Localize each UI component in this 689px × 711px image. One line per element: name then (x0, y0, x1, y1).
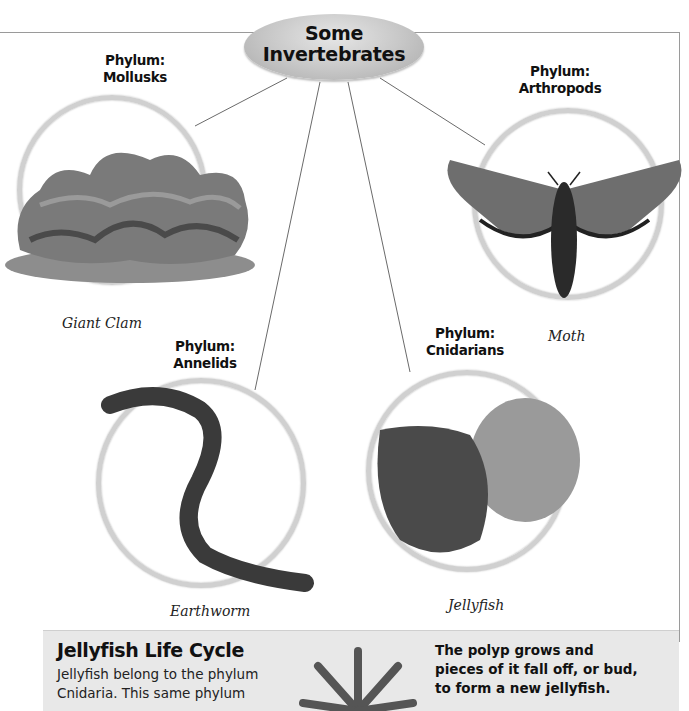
phylum-name: Annelids (150, 355, 260, 372)
panel-side-text: The polyp grows and pieces of it fall of… (435, 641, 665, 698)
panel-title: Jellyfish Life Cycle (57, 639, 244, 661)
jellyfish-life-cycle-panel: Jellyfish Life Cycle Jellyfish belong to… (43, 630, 679, 711)
polyp-image (298, 641, 418, 711)
title-line-1: Some (244, 23, 424, 44)
panel-side-line: The polyp grows and (435, 641, 665, 660)
phylum-prefix: Phylum: (505, 63, 615, 80)
moth-image (440, 150, 689, 300)
caption-moth: Moth (548, 328, 585, 344)
phylum-name: Arthropods (505, 80, 615, 97)
panel-text-line: Jellyfish belong to the phylum (57, 665, 297, 684)
caption-earthworm: Earthworm (170, 603, 250, 619)
title-line-2: Invertebrates (244, 44, 424, 65)
jellyfish-image (350, 390, 590, 580)
phylum-label-cnidarians: Phylum: Cnidarians (410, 325, 520, 359)
panel-text: Jellyfish belong to the phylum Cnidaria.… (57, 665, 297, 703)
phylum-name: Mollusks (80, 69, 190, 86)
panel-side-line: pieces of it fall off, or bud, (435, 660, 665, 679)
phylum-label-arthropods: Phylum: Arthropods (505, 63, 615, 97)
phylum-prefix: Phylum: (80, 52, 190, 69)
phylum-prefix: Phylum: (150, 338, 260, 355)
phylum-prefix: Phylum: (410, 325, 520, 342)
giant-clam-image (0, 130, 260, 285)
phylum-name: Cnidarians (410, 342, 520, 359)
phylum-label-mollusks: Phylum: Mollusks (80, 52, 190, 86)
panel-text-line: Cnidaria. This same phylum (57, 684, 297, 703)
earthworm-image (100, 385, 320, 595)
caption-jellyfish: Jellyfish (448, 597, 504, 613)
title-oval: Some Invertebrates (244, 14, 424, 80)
phylum-label-annelids: Phylum: Annelids (150, 338, 260, 372)
panel-side-line: to form a new jellyfish. (435, 679, 665, 698)
caption-giant-clam: Giant Clam (62, 315, 142, 331)
